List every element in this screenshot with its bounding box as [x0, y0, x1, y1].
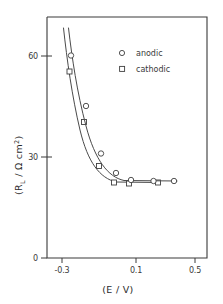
- chart-canvas: 60 30 0 -0.3 0.1 0.5: [0, 0, 223, 304]
- y-axis-title-open: (R: [13, 184, 24, 195]
- y-tick-label-30: 30: [28, 153, 38, 162]
- cathodic-markers: [67, 69, 161, 186]
- y-axis-title-mid: / Ω cm: [13, 144, 24, 180]
- legend-square-icon: [120, 66, 125, 71]
- y-axis-title-close: ): [13, 136, 24, 140]
- x-axis-title: (E / V): [102, 284, 133, 295]
- x-tick-label-0p1: 0.1: [130, 266, 142, 275]
- x-tick-label-neg0p3: -0.3: [55, 266, 70, 275]
- x-tick-label-0p5: 0.5: [189, 266, 201, 275]
- legend-entry-anodic[interactable]: anodic: [119, 49, 162, 58]
- y-tick-label-0: 0: [33, 254, 38, 263]
- legend-circle-icon: [119, 50, 124, 55]
- legend-entry-cathodic[interactable]: cathodic: [120, 65, 171, 74]
- x-axis-ticks: [62, 258, 195, 263]
- figure-container: 60 30 0 -0.3 0.1 0.5: [0, 0, 223, 304]
- legend: anodic cathodic: [119, 49, 170, 74]
- y-tick-label-60: 60: [28, 52, 38, 61]
- y-axis-title: (RL / Ω cm2): [13, 136, 27, 195]
- legend-label-cathodic: cathodic: [136, 65, 170, 74]
- legend-label-anodic: anodic: [136, 49, 163, 58]
- svg-text:(RL / Ω cm2): (RL / Ω cm2): [13, 136, 27, 195]
